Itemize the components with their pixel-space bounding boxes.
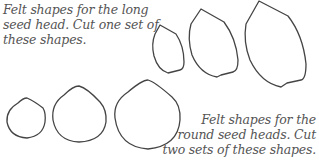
long-seed-shape-medium <box>189 9 238 77</box>
caption-line: seed head. Cut one set of <box>3 17 159 32</box>
caption-line: Felt shapes for the <box>162 112 316 127</box>
long-seed-shape-large <box>245 1 306 87</box>
caption-line: Felt shapes for the long <box>3 2 159 17</box>
caption-line: round seed heads. Cut <box>162 127 316 142</box>
caption-round-seed-heads: Felt shapes for the round seed heads. Cu… <box>162 112 316 157</box>
round-seed-shape-medium <box>53 86 106 142</box>
round-seed-shape-small <box>7 98 45 138</box>
felt-shapes-diagram: Felt shapes for the long seed head. Cut … <box>0 0 319 167</box>
caption-line: these shapes. <box>3 32 159 47</box>
caption-long-seed-head: Felt shapes for the long seed head. Cut … <box>3 2 159 47</box>
caption-line: two sets of these shapes. <box>162 142 316 157</box>
